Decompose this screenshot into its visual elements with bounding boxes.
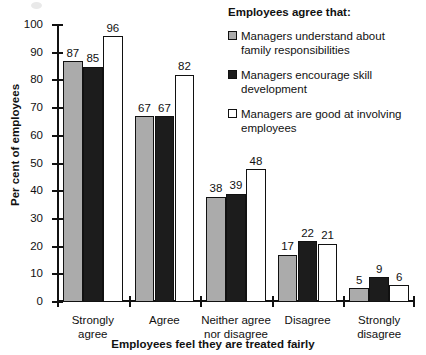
y-tick-label: 40 <box>30 185 43 197</box>
x-tick <box>272 296 274 307</box>
x-tick <box>129 296 131 307</box>
x-tick <box>57 296 59 307</box>
bar: 21 <box>318 244 338 302</box>
legend-title: Employees agree that: <box>228 6 418 18</box>
y-tick: 10 <box>52 273 63 275</box>
y-tick: 50 <box>52 163 63 165</box>
x-category-line: Neither agree <box>201 313 271 327</box>
bar-value-label: 5 <box>356 275 362 287</box>
x-tick <box>413 296 415 307</box>
y-tick: 60 <box>52 135 63 137</box>
bar: 39 <box>226 194 246 302</box>
y-tick-label: 90 <box>30 47 43 59</box>
bar-value-label: 6 <box>396 272 402 284</box>
scan-artifact <box>31 2 42 9</box>
y-tick-label: 10 <box>30 269 43 281</box>
y-tick: 30 <box>52 218 63 220</box>
bar-value-label: 9 <box>376 264 382 276</box>
bar: 85 <box>83 67 103 302</box>
bar-value-label: 21 <box>321 230 334 242</box>
bar: 38 <box>206 197 226 302</box>
legend-swatch-icon <box>228 31 237 40</box>
bar: 17 <box>278 255 298 302</box>
x-category-label: Agree <box>149 313 180 327</box>
y-tick-label: 50 <box>30 158 43 170</box>
y-tick-label: 100 <box>24 19 43 31</box>
y-tick: 40 <box>52 190 63 192</box>
y-tick-label: 80 <box>30 75 43 87</box>
x-tick <box>200 296 202 307</box>
bar-value-label: 22 <box>301 228 314 240</box>
legend-swatch-icon <box>228 70 237 79</box>
y-tick: 90 <box>52 52 63 54</box>
y-tick-label: 30 <box>30 213 43 225</box>
bar-value-label: 48 <box>250 156 263 168</box>
x-category-label: Disagree <box>285 313 331 327</box>
x-category-line: Strongly <box>357 313 401 327</box>
x-category-label: Neither agreenor disagree <box>201 313 271 341</box>
y-tick-label: 20 <box>30 241 43 253</box>
y-tick: 20 <box>52 246 63 248</box>
x-category-line: Agree <box>149 313 180 327</box>
y-axis-title-text: Per cent of employees <box>9 84 21 206</box>
bar: 22 <box>298 241 318 302</box>
x-category-label: Stronglydisagree <box>357 313 401 341</box>
legend-item-label: Managers are good at involving employees <box>241 107 418 136</box>
x-axis-title: Employees feel they are treated fairly <box>0 338 426 350</box>
legend-swatch-icon <box>228 109 237 118</box>
y-axis-title: Per cent of employees <box>6 0 24 290</box>
bar-group: 878596Stronglyagree <box>63 25 123 302</box>
legend: Employees agree that: Managers understan… <box>228 6 418 145</box>
legend-items: Managers understand about family respons… <box>228 29 418 135</box>
bar: 9 <box>369 277 389 302</box>
y-tick: 100 <box>52 24 63 26</box>
x-category-line: Disagree <box>285 313 331 327</box>
y-tick-label: 70 <box>30 102 43 114</box>
bar: 6 <box>389 285 409 302</box>
bar-value-label: 39 <box>230 180 243 192</box>
bar: 67 <box>135 116 155 302</box>
legend-item-label: Managers encourage skill development <box>241 68 418 97</box>
bar: 67 <box>155 116 175 302</box>
y-tick-label: 60 <box>30 130 43 142</box>
x-category-line: Strongly <box>72 313 114 327</box>
legend-item-label: Managers understand about family respons… <box>241 29 418 58</box>
bar-value-label: 67 <box>158 103 171 115</box>
bar: 5 <box>349 288 369 302</box>
chart-figure: Per cent of employees 010203040506070809… <box>0 0 426 355</box>
legend-item: Managers encourage skill development <box>228 68 418 97</box>
bar-value-label: 85 <box>86 53 99 65</box>
y-tick: 80 <box>52 79 63 81</box>
bar: 82 <box>175 75 195 302</box>
bar-value-label: 38 <box>210 183 223 195</box>
bar: 87 <box>63 61 83 302</box>
bar-value-label: 87 <box>66 48 79 60</box>
x-tick <box>343 296 345 307</box>
bar-value-label: 67 <box>138 103 151 115</box>
legend-item: Managers understand about family respons… <box>228 29 418 58</box>
bar-value-label: 82 <box>178 61 191 73</box>
bar-group: 676782Agree <box>135 25 195 302</box>
bar-value-label: 96 <box>106 23 119 35</box>
x-category-label: Stronglyagree <box>72 313 114 341</box>
y-tick: 70 <box>52 107 63 109</box>
bar: 96 <box>103 36 123 302</box>
y-tick-label: 0 <box>37 296 43 308</box>
legend-item: Managers are good at involving employees <box>228 107 418 136</box>
bar-value-label: 17 <box>281 241 294 253</box>
bar: 48 <box>246 169 266 302</box>
